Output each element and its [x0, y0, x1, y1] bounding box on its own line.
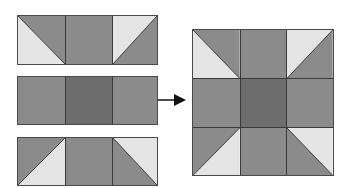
- block-cell-middle-right: [286, 78, 333, 126]
- patch-solid-medium: [65, 16, 112, 64]
- top-row-strip: [17, 15, 158, 65]
- finished-nine-patch-block: [192, 29, 334, 176]
- block-cell-bottom-right: [286, 127, 333, 175]
- patch-hst-light-top-right: [112, 138, 157, 185]
- bottom-row-strip: [17, 137, 158, 186]
- arrow-right-icon: [158, 93, 186, 107]
- middle-row-strip: [17, 76, 158, 125]
- block-cell-bottom-left: [193, 127, 240, 175]
- block-cell-bottom-center: [240, 127, 287, 175]
- block-cell-middle-left: [193, 78, 240, 126]
- patch-solid-medium: [18, 77, 65, 124]
- block-cell-top-left: [193, 30, 240, 78]
- patch-solid-dark-center: [65, 77, 112, 124]
- patch-solid-medium: [112, 77, 157, 124]
- block-cell-center-dark: [240, 78, 287, 126]
- patch-hst-light-bottom-right: [18, 138, 65, 185]
- patch-hst-light-bottom-left: [18, 16, 65, 64]
- block-cell-top-center: [240, 30, 287, 78]
- patch-solid-medium: [65, 138, 112, 185]
- patch-hst-light-top-left: [112, 16, 157, 64]
- block-cell-top-right: [286, 30, 333, 78]
